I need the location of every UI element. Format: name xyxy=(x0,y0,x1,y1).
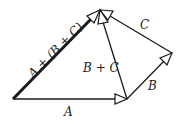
label-b-plus-c: B + C xyxy=(82,61,119,75)
label-b: B xyxy=(147,79,157,93)
label-a-plus-b-plus-c: A + (B + C) xyxy=(25,20,86,81)
arrowhead-a-icon xyxy=(115,94,127,104)
label-c: C xyxy=(140,18,149,32)
label-a: A xyxy=(63,105,73,119)
vector-a xyxy=(13,94,127,104)
vector-diagram: A B C B + C A + (B + C) xyxy=(0,0,184,126)
